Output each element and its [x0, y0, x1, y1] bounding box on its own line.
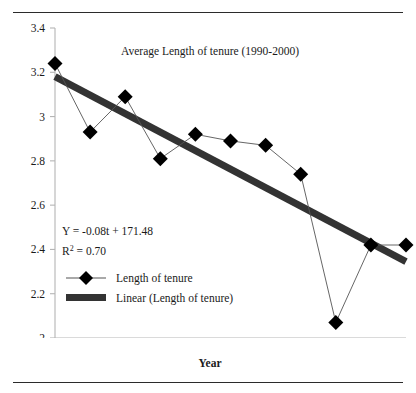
chart-title: Average Length of tenure (1990-2000) — [121, 45, 299, 58]
data-point-marker — [153, 151, 168, 166]
data-point-marker — [399, 238, 414, 253]
y-axis-tick-label: 2.6 — [31, 199, 46, 211]
y-axis-tick-label: 3.2 — [31, 66, 46, 78]
figure-container: 22.22.42.62.833.23.4 Average Length of t… — [0, 0, 416, 393]
x-axis-label-svg: Year — [0, 352, 416, 376]
y-axis-ticks — [50, 28, 55, 338]
data-point-marker — [188, 127, 203, 142]
r-squared-annotation: R2 = 0.70 — [62, 244, 106, 257]
y-axis-tick-labels: 22.22.42.62.833.23.4 — [31, 22, 46, 338]
y-axis-tick-label: 2.2 — [31, 288, 46, 300]
data-point-marker — [293, 167, 308, 182]
legend-label-length-of-tenure: Length of tenure — [116, 272, 193, 285]
x-axis-label: Year — [199, 357, 222, 369]
data-point-marker — [258, 138, 273, 153]
data-point-marker — [48, 56, 63, 71]
bottom-horizontal-rule — [13, 382, 403, 383]
regression-equation: Y = -0.08t + 171.48 — [62, 225, 153, 237]
top-horizontal-rule — [13, 12, 403, 13]
r-squared-suffix: = 0.70 — [74, 245, 107, 257]
legend-entry-length-of-tenure: Length of tenure — [66, 271, 193, 285]
legend-bar-icon — [66, 294, 106, 301]
length-of-tenure-markers — [48, 56, 414, 330]
legend-label-linear-trend: Linear (Length of tenure) — [116, 292, 233, 305]
y-axis-tick-label: 2 — [39, 332, 45, 338]
chart-plot-area: 22.22.42.62.833.23.4 Average Length of t… — [0, 20, 416, 338]
y-axis-tick-label: 2.4 — [31, 243, 46, 255]
legend-diamond-icon — [79, 271, 93, 285]
y-axis-tick-label: 3 — [39, 111, 45, 123]
legend-entry-linear-trend: Linear (Length of tenure) — [66, 292, 233, 305]
line-chart-svg: 22.22.42.62.833.23.4 Average Length of t… — [0, 20, 416, 338]
y-axis-tick-label: 2.8 — [31, 155, 46, 167]
y-axis-tick-label: 3.4 — [31, 22, 46, 34]
data-point-marker — [223, 133, 238, 148]
data-point-marker — [328, 315, 343, 330]
